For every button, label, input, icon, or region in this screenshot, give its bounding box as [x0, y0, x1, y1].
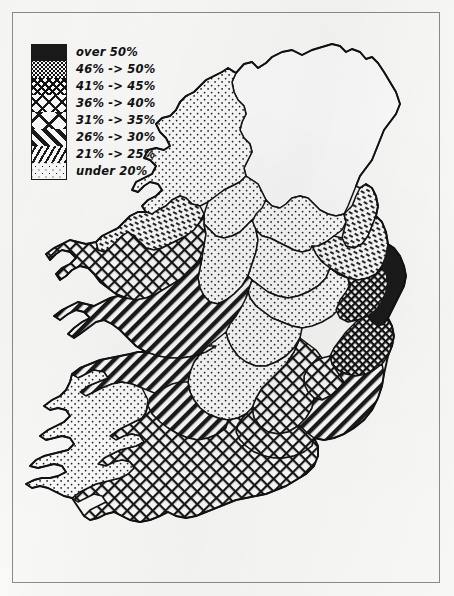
legend-label: 41% -> 45%: [76, 78, 155, 95]
legend-row: 26% -> 30%: [31, 129, 155, 146]
legend-swatch-diagonal-stripes: [31, 129, 67, 146]
legend-label: 46% -> 50%: [76, 61, 155, 78]
legend-label: over 50%: [76, 44, 138, 61]
map-legend: over 50% 46% -> 50% 41% -> 45% 36% -> 40…: [31, 44, 155, 180]
legend-swatch-coarse-crosshatch: [31, 95, 67, 112]
legend-row: 41% -> 45%: [31, 78, 155, 95]
legend-label: 31% -> 35%: [76, 112, 155, 129]
legend-row: 31% -> 35%: [31, 112, 155, 129]
legend-label: 26% -> 30%: [76, 129, 155, 146]
region-wicklow: [330, 316, 394, 376]
legend-row: 46% -> 50%: [31, 61, 155, 78]
legend-swatch-dense-crosshatch: [31, 78, 67, 95]
legend-swatch-solid-black: [31, 44, 67, 61]
legend-label: under 20%: [76, 163, 147, 180]
legend-row: over 50%: [31, 44, 155, 61]
legend-swatch-open-crosshatch: [31, 112, 67, 129]
legend-label: 36% -> 40%: [76, 95, 155, 112]
legend-swatch-light-stipple: [31, 163, 67, 180]
scanned-map-page: over 50% 46% -> 50% 41% -> 45% 36% -> 40…: [0, 0, 454, 596]
legend-row: 36% -> 40%: [31, 95, 155, 112]
legend-row: 21% -> 25%: [31, 146, 155, 163]
legend-swatch-fine-dots: [31, 61, 67, 78]
legend-swatch-back-diagonal-hatch: [31, 146, 67, 163]
legend-row: under 20%: [31, 163, 155, 180]
legend-label: 21% -> 25%: [76, 146, 155, 163]
